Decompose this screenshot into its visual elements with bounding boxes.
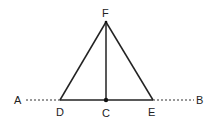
segment-d-f bbox=[60, 22, 106, 100]
point-c-dot bbox=[104, 98, 108, 102]
point-f-dot bbox=[105, 21, 108, 24]
label-a: A bbox=[14, 94, 22, 106]
label-f: F bbox=[102, 7, 109, 19]
segment-f-e bbox=[106, 22, 153, 100]
label-d: D bbox=[56, 106, 64, 118]
label-e: E bbox=[148, 106, 155, 118]
geometry-diagram: F A B D C E bbox=[0, 0, 216, 124]
label-c: C bbox=[102, 107, 110, 119]
label-b: B bbox=[196, 94, 203, 106]
